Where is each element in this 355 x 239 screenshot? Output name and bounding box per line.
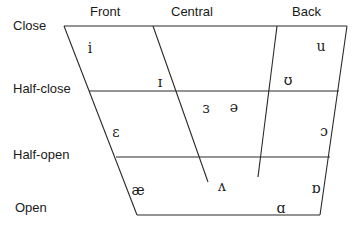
vowel-symbol: ɪ [158, 75, 162, 89]
vowel-symbol: ɒ [312, 181, 321, 195]
row-label-half-open: Half-open [13, 148, 69, 161]
central-left-line [153, 26, 208, 182]
back-edge [320, 26, 347, 215]
column-label-back: Back [292, 5, 321, 18]
row-label-open: Open [15, 201, 47, 214]
front-edge [64, 26, 137, 215]
vowel-symbol: u [316, 39, 325, 53]
row-label-close: Close [13, 19, 46, 32]
vowel-symbol: ʊ [284, 73, 293, 87]
vowel-quadrilateral: FrontCentralBackCloseHalf-closeHalf-open… [0, 0, 355, 239]
vowel-symbol: ɔ [320, 124, 328, 138]
vowel-symbol: ɛ [112, 125, 119, 139]
vowel-symbol: ɜ [202, 101, 209, 115]
central-right-line [258, 26, 277, 177]
column-label-central: Central [171, 5, 213, 18]
quadrilateral-lines [0, 0, 355, 239]
vowel-symbol: ɑ [277, 201, 286, 215]
row-label-half-close: Half-close [13, 82, 71, 95]
vowel-symbol: æ [131, 183, 144, 197]
vowel-symbol: ə [230, 100, 238, 114]
vowel-symbol: ʌ [218, 179, 226, 193]
vowel-symbol: i [88, 41, 92, 55]
column-label-front: Front [90, 5, 120, 18]
